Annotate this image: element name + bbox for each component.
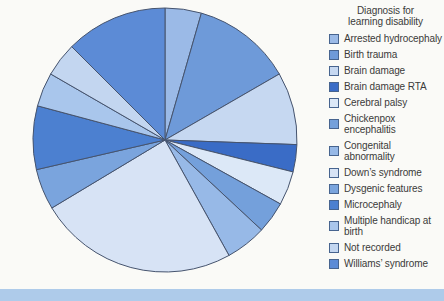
legend-item-label: Congenital abnormality [344,140,442,162]
legend-swatch-icon [329,98,339,108]
legend-swatch-icon [329,221,339,231]
legend-item-2: Brain damage [329,65,442,76]
legend-item-6: Congenital abnormality [329,140,442,162]
legend-swatch-icon [329,146,339,156]
legend-item-0: Arrested hydrocephaly [329,33,442,44]
legend-swatch-icon [329,168,339,178]
legend-item-11: Not recorded [329,242,442,253]
footer-bar [0,289,444,301]
legend-item-1: Birth trauma [329,49,442,60]
legend-item-label: Birth trauma [344,49,442,60]
legend-item-label: Brain damage [344,65,442,76]
legend-item-7: Down’s syndrome [329,167,442,178]
legend-swatch-icon [329,50,339,60]
legend-item-4: Cerebral palsy [329,97,442,108]
legend-swatch-icon [329,34,339,44]
legend-item-label: Dysgenic features [344,183,442,194]
legend-title: Diagnosis for learning disability [342,5,430,27]
legend-item-label: Chickenpox encephalitis [344,113,442,135]
legend-item-10: Multiple handicap at birth [329,215,442,237]
legend-swatch-icon [329,119,339,129]
legend-item-label: Arrested hydrocephaly [344,33,442,44]
legend-item-3: Brain damage RTA [329,81,442,92]
chart-canvas: Diagnosis for learning disability Arrest… [0,0,444,301]
legend-swatch-icon [329,184,339,194]
legend-item-9: Microcephaly [329,199,442,210]
legend-item-12: Williams’ syndrome [329,258,442,269]
legend-item-label: Williams’ syndrome [344,258,442,269]
legend-item-label: Down’s syndrome [344,167,442,178]
legend-item-5: Chickenpox encephalitis [329,113,442,135]
pie-chart [0,0,330,290]
legend-item-label: Multiple handicap at birth [344,215,442,237]
legend: Diagnosis for learning disability Arrest… [329,5,442,274]
legend-items: Arrested hydrocephalyBirth traumaBrain d… [329,33,442,269]
legend-item-label: Cerebral palsy [344,97,442,108]
legend-item-label: Microcephaly [344,199,442,210]
legend-swatch-icon [329,200,339,210]
legend-swatch-icon [329,66,339,76]
legend-item-8: Dysgenic features [329,183,442,194]
legend-swatch-icon [329,82,339,92]
legend-item-label: Not recorded [344,242,442,253]
legend-swatch-icon [329,259,339,269]
legend-swatch-icon [329,243,339,253]
legend-item-label: Brain damage RTA [344,81,442,92]
